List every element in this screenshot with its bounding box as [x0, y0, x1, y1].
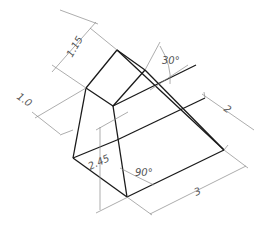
- label-top-height: 1.15: [64, 34, 85, 59]
- dimensions: 1.15 1.0 30° 2 2.45 90° 3: [15, 10, 254, 215]
- inner-horizontal-edge: [117, 98, 205, 140]
- mid-edge: [113, 65, 196, 106]
- label-depth: 2: [222, 103, 234, 116]
- label-ridge-angle: 30°: [162, 55, 180, 66]
- base-back-edge: [73, 140, 117, 158]
- front-left-edge: [73, 88, 86, 158]
- label-height: 2.45: [86, 152, 111, 171]
- label-left-offset: 1.0: [15, 91, 34, 109]
- isometric-drawing: 1.15 1.0 30° 2 2.45 90° 3: [0, 0, 273, 230]
- label-width: 3: [192, 185, 202, 198]
- front-face: [86, 50, 145, 106]
- label-corner-angle: 90°: [135, 167, 153, 178]
- back-slope-edge: [145, 70, 224, 150]
